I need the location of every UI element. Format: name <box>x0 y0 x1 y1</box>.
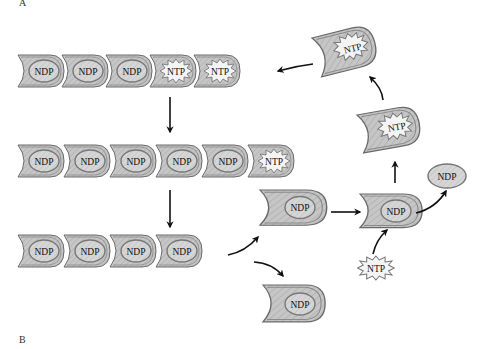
free-ntp-label: NTP <box>367 264 385 274</box>
unit-ntp: NTP <box>194 55 240 87</box>
svg-text:NTP: NTP <box>167 67 185 77</box>
polymer-diagram: NDP NDP NDP NTP NTP NDP NDP NDP NDP NDP … <box>0 0 479 349</box>
svg-text:NDP: NDP <box>437 172 456 182</box>
svg-text:NDP: NDP <box>34 157 53 167</box>
svg-text:NDP: NDP <box>80 157 99 167</box>
polymer-row-2: NDP NDP NDP NDP NDP NTP <box>18 145 294 177</box>
svg-text:NDP: NDP <box>126 157 145 167</box>
unit-ndp: NDP <box>62 55 108 87</box>
released-unit-ndp-upper: NDP <box>260 190 327 225</box>
arrow-release-down <box>254 262 283 276</box>
polymer-row-1: NDP NDP NDP NTP NTP <box>18 55 240 87</box>
unit-ndp: NDP <box>18 145 64 177</box>
unit-ndp: NDP <box>18 235 64 267</box>
unit-ndp: NDP <box>110 145 156 177</box>
arrow-up-curve <box>370 77 383 100</box>
svg-text:NDP: NDP <box>34 67 53 77</box>
free-ndp: NDP <box>428 164 466 188</box>
arrow-ntp-bind <box>373 230 387 254</box>
svg-text:NDP: NDP <box>290 203 309 213</box>
svg-text:NDP: NDP <box>386 207 405 217</box>
unit-ntp: NTP <box>248 145 294 177</box>
svg-text:NTP: NTP <box>211 67 229 77</box>
unit-ndp: NDP <box>202 145 248 177</box>
svg-text:NTP: NTP <box>265 157 283 167</box>
svg-text:NDP: NDP <box>290 300 309 310</box>
exchange-unit-ndp: NDP <box>360 194 422 228</box>
svg-text:NDP: NDP <box>80 247 99 257</box>
svg-text:NDP: NDP <box>172 157 191 167</box>
unit-ndp: NDP <box>64 145 110 177</box>
unit-ndp: NDP <box>106 55 152 87</box>
svg-text:NDP: NDP <box>78 67 97 77</box>
unit-ntp: NTP <box>150 55 196 87</box>
unit-ndp: NDP <box>156 235 202 267</box>
svg-text:NDP: NDP <box>172 247 191 257</box>
svg-text:NDP: NDP <box>218 157 237 167</box>
svg-text:NDP: NDP <box>122 67 141 77</box>
free-unit-ntp-top: NTP <box>312 24 380 77</box>
unit-ndp: NDP <box>18 55 64 87</box>
unit-ndp: NDP <box>64 235 110 267</box>
arrow-release-up <box>228 237 258 255</box>
polymer-row-3: NDP NDP NDP NDP <box>18 235 202 267</box>
free-unit-ntp-mid: NTP <box>357 105 423 153</box>
unit-ndp: NDP <box>110 235 156 267</box>
unit-ndp: NDP <box>156 145 202 177</box>
svg-text:NDP: NDP <box>34 247 53 257</box>
svg-text:NDP: NDP <box>126 247 145 257</box>
arrow-to-row1 <box>278 64 313 71</box>
released-unit-ndp-lower: NDP <box>263 285 325 322</box>
